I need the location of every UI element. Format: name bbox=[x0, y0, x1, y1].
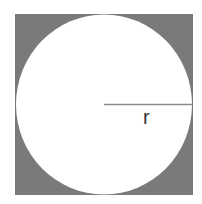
circle-in-square-diagram: r bbox=[0, 0, 202, 204]
radius-label: r bbox=[143, 106, 150, 128]
